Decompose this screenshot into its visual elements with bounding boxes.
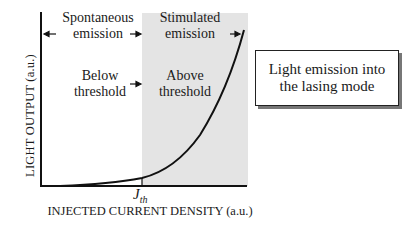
threshold-label: Jth [133, 186, 147, 205]
spontaneous-emission-label: Spontaneous emission [58, 10, 138, 42]
stim-line1: Stimulated [150, 10, 230, 26]
stimulated-emission-label: Stimulated emission [150, 10, 230, 42]
spont-line2: emission [58, 26, 138, 42]
above-threshold-label: Above threshold [150, 68, 220, 100]
stim-line2: emission [150, 26, 230, 42]
y-axis-label: LIGHT OUTPUT (a.u.) [23, 36, 38, 196]
above-line2: threshold [150, 84, 220, 100]
box-line2: the lasing mode [269, 78, 386, 95]
below-line1: Below [65, 68, 135, 84]
spont-line1: Spontaneous [58, 10, 138, 26]
above-line1: Above [150, 68, 220, 84]
below-threshold-label: Below threshold [65, 68, 135, 100]
lasing-mode-annotation-box: Light emission into the lasing mode [255, 50, 399, 106]
below-line2: threshold [65, 84, 135, 100]
box-line1: Light emission into [269, 61, 386, 78]
jth-main: J [133, 186, 140, 202]
x-axis-label: INJECTED CURRENT DENSITY (a.u.) [40, 204, 260, 219]
